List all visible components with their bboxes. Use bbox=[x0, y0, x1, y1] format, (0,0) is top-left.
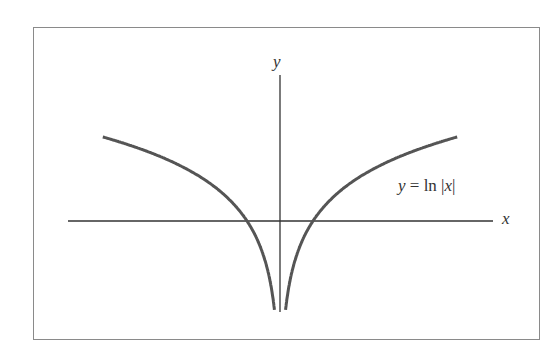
curve-right-branch bbox=[286, 137, 458, 310]
function-label: y = ln |x| bbox=[398, 176, 455, 196]
curve-left-branch bbox=[103, 137, 275, 310]
x-axis-label: x bbox=[502, 209, 510, 229]
y-axis-label: y bbox=[273, 52, 281, 72]
